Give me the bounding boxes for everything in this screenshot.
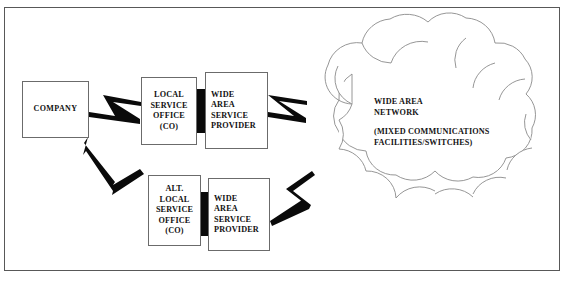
connector-company-to-alt-local-service-office	[83, 137, 144, 195]
node-company[interactable]: COMPANY	[22, 81, 89, 138]
network-cloud-text: WIDE AREA NETWORK (MIXED COMMUNICATIONS …	[374, 97, 534, 148]
node-alt-local-service-office[interactable]: ALT. LOCAL SERVICE OFFICE (CO)	[148, 175, 201, 246]
node-wide-area-service-provider-top-label: WIDE AREA SERVICE PROVIDER	[211, 90, 256, 132]
node-wide-area-service-provider-top[interactable]: WIDE AREA SERVICE PROVIDER	[205, 72, 268, 149]
connector-bottom-provider-to-network-cloud	[270, 171, 315, 226]
node-company-label: COMPANY	[34, 104, 78, 115]
diagram-canvas: COMPANY LOCAL SERVICE OFFICE (CO) WIDE A…	[0, 0, 568, 281]
top-trunk-link	[196, 89, 205, 133]
network-cloud-subtitle: (MIXED COMMUNICATIONS FACILITIES/SWITCHE…	[374, 127, 534, 148]
node-alt-local-service-office-label: ALT. LOCAL SERVICE OFFICE (CO)	[156, 184, 193, 237]
node-local-service-office[interactable]: LOCAL SERVICE OFFICE (CO)	[141, 77, 197, 145]
node-local-service-office-label: LOCAL SERVICE OFFICE (CO)	[150, 90, 187, 132]
node-wide-area-service-provider-bottom[interactable]: WIDE AREA SERVICE PROVIDER	[208, 178, 270, 251]
connector-top-provider-to-network-cloud	[268, 95, 307, 123]
network-cloud-title: WIDE AREA NETWORK	[374, 97, 534, 118]
connector-company-to-local-service-office	[89, 95, 141, 124]
node-wide-area-service-provider-bottom-label: WIDE AREA SERVICE PROVIDER	[214, 194, 259, 236]
